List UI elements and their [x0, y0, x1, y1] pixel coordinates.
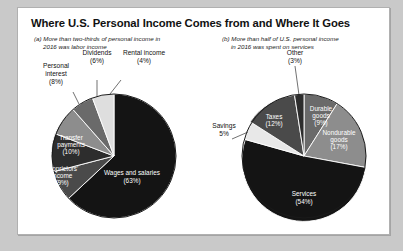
- pie-chart-a: Wages and salaries (63%) Transfer paymen…: [18, 8, 208, 234]
- label-services-line2: (54%): [295, 198, 312, 206]
- label-other-line1: Other: [287, 49, 304, 56]
- label-nondurable-goods-line1: Nondurable: [322, 129, 355, 136]
- label-rental-income-line2: (4%): [137, 57, 151, 65]
- figure-card: Where U.S. Personal Income Comes from an…: [17, 7, 390, 235]
- label-transfer-payments-line1: Transfer: [59, 134, 83, 141]
- label-personal-interest-line2: interest: [45, 70, 67, 77]
- panel-b-chart: Services (54%) Nondurable goods (17%) Du…: [208, 8, 389, 234]
- label-proprietors-income-line3: (9%): [55, 179, 69, 187]
- label-personal-interest-line3: (8%): [49, 78, 63, 86]
- panel-a: (a) More than two-thirds of personal inc…: [18, 8, 208, 234]
- label-proprietors-income-line2: income: [52, 172, 73, 179]
- label-nondurable-goods-line3: (17%): [330, 143, 347, 151]
- panel-b: (b) More than half of U.S. personal inco…: [208, 8, 389, 234]
- label-durable-goods-line1: Durable: [310, 105, 333, 112]
- label-savings-line1: Savings: [212, 122, 236, 130]
- label-services-line1: Services: [292, 190, 317, 197]
- pie-a-wedges: [51, 94, 176, 218]
- label-wages-and-salaries-line2: (63%): [123, 177, 140, 185]
- label-rental-income-line1: Rental income: [123, 49, 165, 56]
- label-transfer-payments-line3: (10%): [62, 148, 79, 156]
- label-savings-line2: 5%: [219, 130, 229, 137]
- panel-a-chart: Wages and salaries (63%) Transfer paymen…: [18, 8, 208, 234]
- figure-page: Where U.S. Personal Income Comes from an…: [0, 0, 403, 251]
- pie-chart-b: Services (54%) Nondurable goods (17%) Du…: [208, 8, 389, 234]
- label-dividends-line2: (6%): [90, 57, 104, 65]
- label-taxes-line2: (12%): [265, 120, 282, 128]
- label-other-line2: (3%): [288, 57, 302, 65]
- label-durable-goods-line3: (9%): [314, 119, 328, 127]
- leader-line-rental-income: [110, 80, 121, 94]
- label-taxes-line1: Taxes: [266, 113, 283, 120]
- leader-line-other: [295, 66, 299, 95]
- label-personal-interest-line1: Personal: [43, 62, 70, 69]
- label-dividends-line1: Dividends: [83, 49, 113, 56]
- leader-line-personal-interest: [73, 92, 79, 104]
